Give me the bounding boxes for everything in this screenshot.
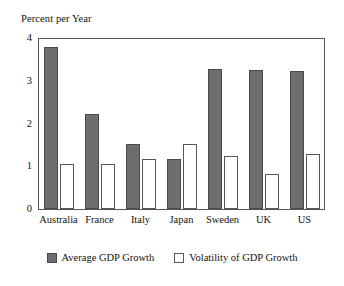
- legend-item: Average GDP Growth: [47, 252, 155, 263]
- bar-japan-series-1: [167, 159, 181, 209]
- y-tick-label: 3: [4, 75, 32, 86]
- x-tick-label: France: [79, 214, 120, 226]
- gdp-growth-bar-chart: Percent per Year 01234 AustraliaFranceIt…: [0, 0, 344, 286]
- x-tick-label: Australia: [38, 214, 79, 226]
- bar-uk-series-1: [249, 70, 263, 209]
- x-tick-label: Japan: [161, 214, 202, 226]
- bar-sweden-series-2: [224, 156, 238, 209]
- bar-us-series-2: [306, 154, 320, 209]
- x-tick-label: UK: [243, 214, 284, 226]
- bar-italy-series-1: [126, 144, 140, 209]
- dark-gray-swatch: [47, 253, 57, 263]
- y-tick-label: 0: [4, 203, 32, 214]
- y-tick-label: 4: [4, 32, 32, 43]
- y-tick-label: 1: [4, 160, 32, 171]
- bar-uk-series-2: [265, 174, 279, 209]
- bar-italy-series-2: [142, 159, 156, 209]
- legend-label: Volatility of GDP Growth: [189, 252, 297, 263]
- plot-area: [38, 38, 325, 210]
- chart-legend: Average GDP GrowthVolatility of GDP Grow…: [0, 252, 344, 263]
- y-tick-label: 2: [4, 118, 32, 129]
- legend-label: Average GDP Growth: [62, 252, 155, 263]
- bar-france-series-2: [101, 164, 115, 209]
- bar-japan-series-2: [183, 144, 197, 209]
- x-tick-label: Sweden: [202, 214, 243, 226]
- bar-australia-series-1: [44, 47, 58, 209]
- bar-sweden-series-1: [208, 69, 222, 209]
- bar-us-series-1: [290, 71, 304, 209]
- bar-australia-series-2: [60, 164, 74, 209]
- x-tick-label: Italy: [120, 214, 161, 226]
- x-tick-label: US: [284, 214, 325, 226]
- bar-france-series-1: [85, 114, 99, 209]
- legend-item: Volatility of GDP Growth: [174, 252, 297, 263]
- white-swatch: [174, 253, 184, 263]
